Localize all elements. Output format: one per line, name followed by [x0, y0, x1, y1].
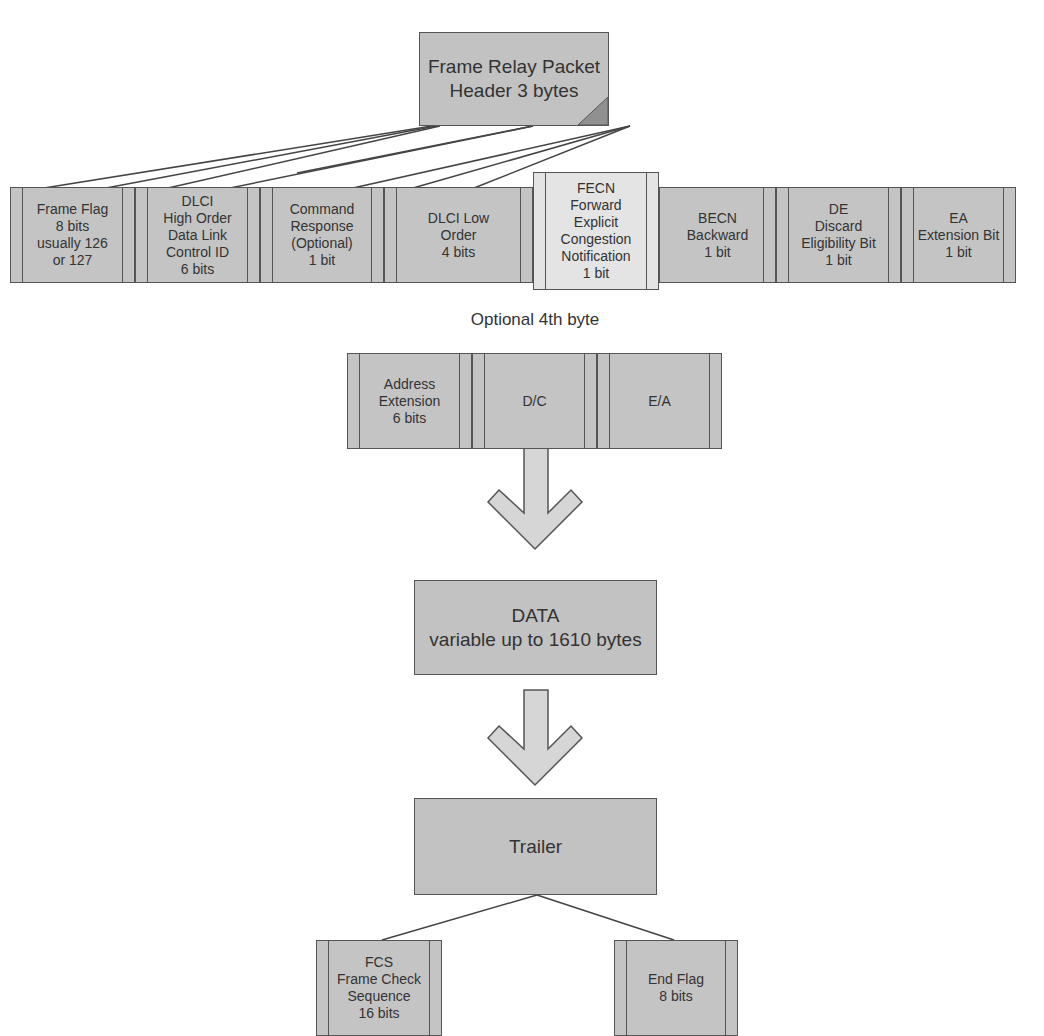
field-label: FECN Forward Explicit Congestion Notific…: [547, 180, 646, 282]
field-dc: D/C: [472, 353, 597, 449]
header-title-line1: Frame Relay Packet: [428, 55, 600, 79]
down-arrow-icon: [488, 690, 582, 785]
trailer-box: Trailer: [414, 798, 657, 895]
field-end-flag: End Flag 8 bits: [614, 940, 738, 1036]
field-label: DE Discard Eligibility Bit 1 bit: [787, 201, 890, 269]
field-label: End Flag 8 bits: [634, 971, 718, 1005]
field-label: E/A: [634, 393, 685, 410]
field-ea-optional: E/A: [597, 353, 722, 449]
field-label: DLCI Low Order 4 bits: [414, 210, 503, 261]
field-frame-flag: Frame Flag 8 bits usually 126 or 127: [10, 187, 135, 283]
field-label: Address Extension 6 bits: [365, 376, 454, 427]
field-label: Command Response (Optional) 1 bit: [276, 201, 369, 269]
field-address-extension: Address Extension 6 bits: [347, 353, 472, 449]
data-title: DATA: [512, 604, 560, 628]
data-box: DATA variable up to 1610 bytes: [414, 580, 657, 675]
optional-byte-caption: Optional 4th byte: [420, 310, 650, 330]
trailer-label: Trailer: [509, 835, 562, 859]
field-becn: BECN Backward 1 bit: [659, 187, 776, 283]
field-ea: EA Extension Bit 1 bit: [901, 187, 1016, 283]
field-label: DLCI High Order Data Link Control ID 6 b…: [149, 193, 245, 278]
field-label: D/C: [508, 393, 560, 410]
header-box: Frame Relay Packet Header 3 bytes: [419, 32, 609, 126]
field-dlci-high: DLCI High Order Data Link Control ID 6 b…: [135, 187, 260, 283]
field-label: Frame Flag 8 bits usually 126 or 127: [23, 201, 123, 269]
folded-corner-icon: [578, 97, 608, 125]
field-label: FCS Frame Check Sequence 16 bits: [323, 954, 435, 1022]
header-title-line2: Header 3 bytes: [450, 79, 579, 103]
field-de: DE Discard Eligibility Bit 1 bit: [776, 187, 901, 283]
field-command-response: Command Response (Optional) 1 bit: [260, 187, 384, 283]
data-subtitle: variable up to 1610 bytes: [429, 628, 641, 652]
down-arrow-icon: [488, 448, 582, 549]
field-label: EA Extension Bit 1 bit: [904, 210, 1014, 261]
trailer-connectors: [382, 895, 674, 940]
field-label: BECN Backward 1 bit: [673, 210, 762, 261]
field-dlci-low: DLCI Low Order 4 bits: [384, 187, 533, 283]
field-fcs: FCS Frame Check Sequence 16 bits: [316, 940, 442, 1036]
field-fecn: FECN Forward Explicit Congestion Notific…: [533, 172, 659, 290]
